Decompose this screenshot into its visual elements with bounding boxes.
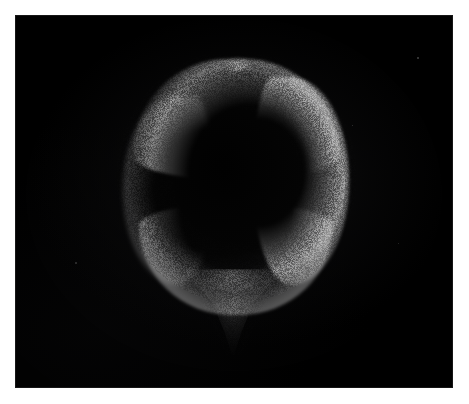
speck-lower-left — [75, 262, 77, 264]
photo-mount — [0, 0, 469, 404]
speck-upper-right — [417, 57, 419, 59]
specimen-tail — [181, 269, 285, 357]
speck-far-right — [398, 243, 399, 244]
specimen-crown-notch — [225, 57, 251, 71]
image-plate — [15, 15, 453, 388]
specimen-object — [113, 55, 359, 355]
